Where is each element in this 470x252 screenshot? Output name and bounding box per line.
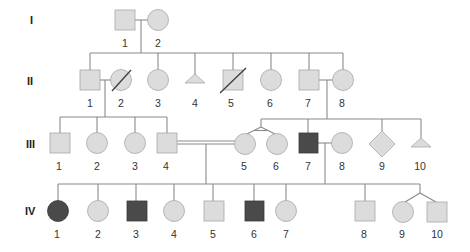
connection-lines	[58, 20, 436, 202]
individual-II-8: 8	[333, 70, 354, 110]
svg-text:3: 3	[133, 228, 139, 240]
individual-II-7: 7	[299, 70, 319, 109]
svg-text:5: 5	[241, 160, 247, 172]
generation-label-IV: IV	[25, 205, 36, 217]
individual-II-4-miscarriage: 4	[185, 74, 205, 109]
svg-text:10: 10	[414, 160, 426, 172]
generation-label-III: III	[26, 138, 35, 150]
svg-text:2: 2	[155, 37, 161, 49]
svg-text:4: 4	[163, 160, 169, 172]
svg-text:3: 3	[155, 97, 161, 109]
svg-text:8: 8	[361, 228, 367, 240]
svg-text:1: 1	[122, 37, 128, 49]
pedigree-chart: I II III IV	[0, 0, 470, 252]
svg-text:4: 4	[192, 97, 198, 109]
individual-IV-8: 8	[355, 201, 375, 240]
individual-I-2: 2	[148, 10, 169, 50]
individual-III-2: 2	[87, 133, 108, 173]
individual-III-3: 3	[125, 133, 146, 173]
svg-text:2: 2	[118, 97, 124, 109]
svg-text:2: 2	[95, 228, 101, 240]
individual-IV-1-affected: 1	[48, 201, 69, 241]
svg-text:5: 5	[210, 228, 216, 240]
svg-text:8: 8	[339, 97, 345, 109]
individual-II-3: 3	[148, 70, 169, 110]
svg-text:6: 6	[273, 160, 279, 172]
svg-text:6: 6	[267, 97, 273, 109]
svg-text:10: 10	[431, 228, 443, 240]
individual-III-6-twin: 6	[267, 134, 288, 173]
individual-IV-4: 4	[164, 201, 185, 241]
individual-III-9-unknown-sex: 9	[369, 131, 395, 172]
svg-text:7: 7	[283, 228, 289, 240]
individual-IV-7: 7	[276, 201, 297, 241]
svg-text:3: 3	[132, 160, 138, 172]
individual-IV-3-affected: 3	[127, 201, 147, 240]
individual-IV-2: 2	[88, 201, 109, 241]
individual-IV-6-affected: 6	[245, 201, 264, 240]
svg-text:9: 9	[379, 160, 385, 172]
individual-IV-9-twin: 9	[393, 202, 414, 241]
svg-text:9: 9	[399, 228, 405, 240]
individual-IV-5: 5	[204, 201, 224, 240]
individual-III-7-affected: 7	[299, 133, 318, 172]
individual-III-10-miscarriage: 10	[411, 138, 431, 172]
individual-II-2-deceased: 2	[111, 70, 132, 110]
svg-text:2: 2	[94, 160, 100, 172]
svg-text:1: 1	[87, 97, 93, 109]
individual-I-1: 1	[115, 10, 135, 49]
individual-II-5-deceased: 5	[220, 68, 246, 109]
svg-text:8: 8	[339, 160, 345, 172]
individual-III-5-twin: 5	[235, 134, 256, 173]
svg-text:1: 1	[56, 160, 62, 172]
individual-II-6: 6	[261, 70, 282, 110]
svg-text:5: 5	[228, 97, 234, 109]
individual-II-1: 1	[80, 70, 100, 109]
svg-text:7: 7	[305, 160, 311, 172]
svg-text:4: 4	[171, 228, 177, 240]
individual-III-4: 4	[157, 133, 177, 172]
svg-text:1: 1	[54, 228, 60, 240]
individual-III-8: 8	[332, 133, 353, 173]
generation-label-I: I	[30, 14, 33, 26]
individual-IV-10-twin: 10	[427, 202, 447, 240]
individual-III-1: 1	[50, 133, 70, 172]
svg-text:7: 7	[305, 97, 311, 109]
generation-label-II: II	[27, 75, 33, 87]
svg-text:6: 6	[251, 228, 257, 240]
